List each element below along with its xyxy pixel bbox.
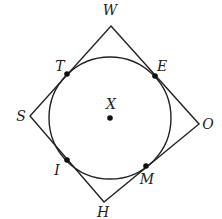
point-m: [143, 163, 149, 169]
label-s: S: [16, 108, 26, 124]
point-e: [152, 73, 158, 79]
label-x: X: [105, 96, 117, 112]
center-point-x: [107, 115, 113, 121]
label-e: E: [156, 58, 167, 74]
tangent-points: TEMI: [53, 58, 167, 187]
label-m: M: [139, 171, 155, 187]
point-t: [64, 71, 70, 77]
label-t: T: [55, 58, 66, 74]
label-i: I: [53, 162, 60, 178]
label-o: O: [202, 116, 214, 132]
geometry-diagram: X WOHS TEMI: [0, 0, 222, 219]
label-h: H: [96, 204, 110, 219]
label-w: W: [103, 2, 119, 18]
point-i: [64, 157, 70, 163]
